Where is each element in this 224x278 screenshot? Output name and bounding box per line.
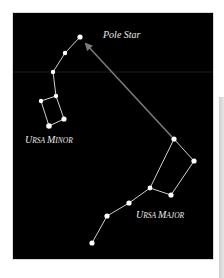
star [168, 192, 173, 197]
star [46, 123, 52, 129]
star [54, 94, 58, 98]
ursa-major-lines [92, 139, 194, 243]
ursa-major-line [107, 203, 129, 216]
ursa-minor-label-part: RSA [31, 136, 47, 145]
star [63, 51, 67, 55]
ursa-minor-line [53, 72, 56, 96]
ursa-major-line [174, 139, 194, 161]
pole-star [77, 34, 82, 39]
star-merak-side [191, 158, 196, 163]
star [148, 186, 153, 191]
star [51, 70, 55, 74]
pointer-arrow-icon [86, 44, 172, 137]
ursa-major-label-part: RSA [142, 211, 158, 220]
ursa-major-line [150, 139, 174, 188]
star [61, 116, 66, 121]
ursa-minor-line [56, 96, 64, 119]
ursa-minor-line [41, 96, 56, 101]
ursa-minor-line [41, 101, 49, 126]
ursa-major-line [129, 188, 150, 203]
ursa-minor-line [53, 53, 65, 72]
ursa-minor-label: URSA MINOR [25, 134, 73, 145]
star [104, 213, 109, 218]
star [126, 200, 131, 205]
ursa-major-line [150, 188, 171, 195]
ursa-minor-line [65, 37, 80, 53]
star-chart: Pole Star URSA MINOR URSA MAJOR [0, 0, 224, 278]
ursa-major-line [171, 161, 194, 195]
ursa-minor-label-part: INOR [54, 136, 73, 145]
ursa-major-stars [89, 136, 196, 245]
star-dubhe [171, 136, 176, 141]
star [39, 99, 43, 103]
ursa-major-line [92, 216, 107, 243]
ursa-minor-lines [41, 37, 80, 126]
star [89, 240, 94, 245]
ursa-major-label: URSA MAJOR [136, 209, 185, 220]
pole-star-label: Pole Star [102, 29, 141, 40]
ursa-major-label-part: AJOR [165, 211, 184, 220]
